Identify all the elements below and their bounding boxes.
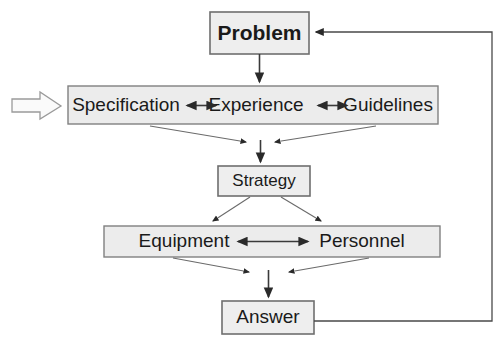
node-answer-label: Answer — [236, 306, 300, 327]
node-answer[interactable]: Answer — [222, 301, 314, 334]
node-experience-label[interactable]: Experience — [208, 94, 303, 115]
node-problem[interactable]: Problem — [210, 12, 309, 54]
edge-band-to-answer-left — [173, 258, 249, 272]
node-guidelines-label[interactable]: Guidelines — [343, 94, 433, 115]
edge-strategy-to-personnel — [281, 197, 321, 221]
diagram-canvas: Problem Specification Experience Guideli… — [0, 0, 503, 350]
edge-band-to-strategy-left — [150, 126, 246, 142]
edge-band-to-strategy-right — [275, 126, 376, 142]
input-arrow-icon — [12, 92, 61, 119]
node-personnel-label[interactable]: Personnel — [319, 230, 405, 251]
node-problem-label: Problem — [217, 21, 301, 44]
edge-strategy-to-equipment — [213, 197, 250, 221]
node-equipment-label[interactable]: Equipment — [139, 230, 231, 251]
node-specification-label[interactable]: Specification — [72, 94, 180, 115]
node-strategy[interactable]: Strategy — [218, 166, 310, 196]
edge-answer-feedback-loop — [314, 32, 492, 321]
edge-band-to-answer-right — [289, 258, 369, 272]
flowchart-svg: Problem Specification Experience Guideli… — [0, 0, 503, 350]
node-strategy-label: Strategy — [232, 171, 296, 190]
